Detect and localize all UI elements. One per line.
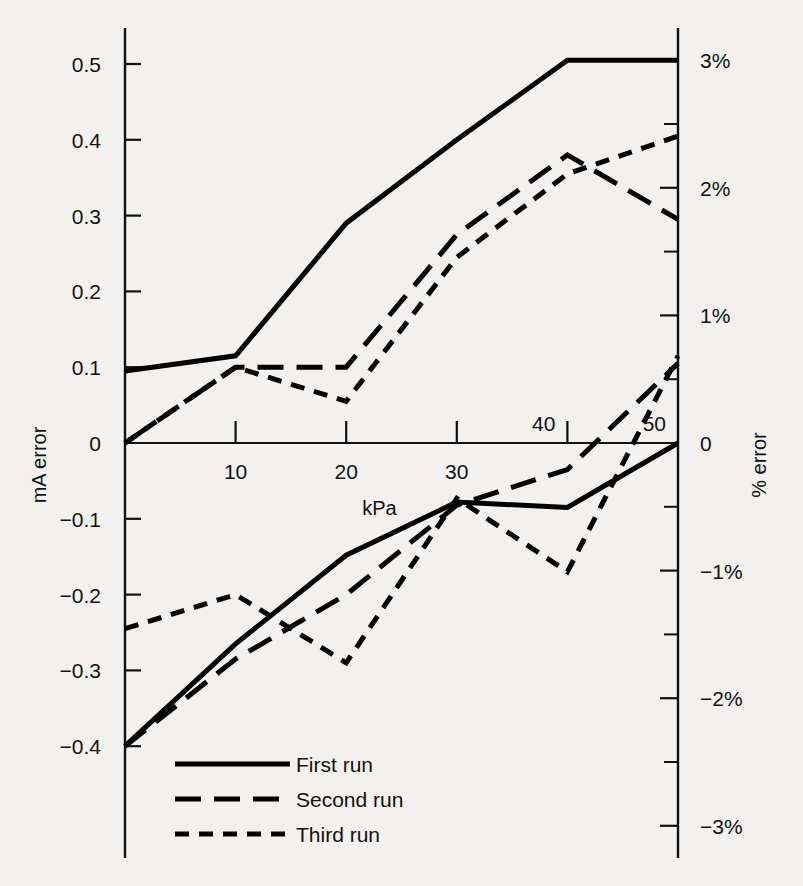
x-axis-tick-label: 10	[224, 460, 247, 483]
series-line	[125, 363, 678, 746]
right-axis-tick-label: 0	[700, 432, 712, 455]
left-axis-tick-label: 0.2	[72, 280, 101, 303]
left-axis-tick-label: 0.5	[72, 53, 101, 76]
left-axis-tick-label: 0.1	[72, 356, 101, 379]
y-axis-title: mA error	[28, 426, 50, 503]
series-line	[125, 443, 678, 746]
series-line	[125, 155, 678, 443]
x-axis-tick-label: 40	[532, 412, 555, 435]
figure-container: 0.50.40.30.20.10−0.1−0.2−0.3−0.43%2%1%0−…	[0, 0, 803, 886]
legend-label: Third run	[296, 823, 380, 846]
right-axis-tick-label: 1%	[700, 304, 730, 327]
right-axis-tick-label: 2%	[700, 177, 730, 200]
left-axis-tick-label: 0	[89, 432, 101, 455]
series-line	[125, 60, 678, 371]
right-axis-tick-label: −3%	[700, 815, 743, 838]
right-axis-tick-label: −2%	[700, 687, 743, 710]
left-axis-tick-label: −0.1	[60, 508, 101, 531]
left-axis-tick-label: −0.2	[60, 584, 101, 607]
x-axis-tick-label: 50	[643, 412, 666, 435]
x-axis-tick-label: 30	[445, 460, 468, 483]
series-line	[125, 356, 678, 663]
left-axis-tick-label: −0.3	[60, 659, 101, 682]
legend-layer: First runSecond runThird run	[175, 753, 403, 846]
error-chart: 0.50.40.30.20.10−0.1−0.2−0.3−0.43%2%1%0−…	[0, 0, 803, 886]
right-axis-tick-label: 3%	[700, 49, 730, 72]
legend-label: Second run	[296, 788, 403, 811]
y2-axis-title: % error	[748, 432, 770, 498]
legend-label: First run	[296, 753, 373, 776]
left-axis-tick-label: 0.3	[72, 205, 101, 228]
x-axis-tick-label: 20	[335, 460, 358, 483]
series-layer	[125, 60, 678, 746]
right-axis-tick-label: −1%	[700, 560, 743, 583]
x-axis-title: kPa	[362, 497, 397, 519]
left-axis-tick-label: 0.4	[72, 129, 102, 152]
left-axis-tick-label: −0.4	[60, 735, 102, 758]
